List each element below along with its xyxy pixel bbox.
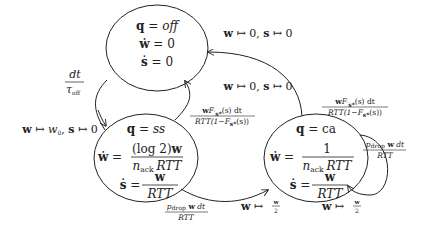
- svg-text:pdrop w dt: pdrop w dt: [366, 140, 405, 150]
- reset-label-ss-off: w ↦ 0, s ↦ 0: [222, 80, 292, 93]
- rate-label-ca-self: pdrop w dt RTT: [363, 140, 406, 160]
- svg-text:RTT(1−Fs*(s)): RTT(1−Fs*(s)): [327, 108, 382, 118]
- svg-text:RTT: RTT: [316, 187, 343, 201]
- reset-label-ca-self: w ↦ w 2: [321, 198, 361, 214]
- svg-text:ẇ =: ẇ =: [269, 150, 294, 164]
- rate-label-ss-off: wF′s*(s) dt RTT(1−Fs*(s)): [190, 106, 255, 127]
- reset-label-ca-off: w ↦ 0, s ↦ 0: [222, 27, 292, 40]
- svg-text:w: w: [324, 170, 336, 184]
- rate-label-ss-ca: pdrop w dt RTT: [165, 202, 208, 222]
- svg-text:τoff: τoff: [66, 83, 81, 96]
- state-off: q = off ẇ = 0 ṡ = 0: [106, 5, 208, 91]
- rate-label-ca-off: wF′s*(s) dt RTT(1−Fs*(s)): [322, 97, 388, 118]
- svg-text:ṡ =: ṡ =: [290, 178, 311, 192]
- state-off-name: off: [162, 19, 180, 33]
- svg-text:w ↦: w ↦: [240, 200, 264, 213]
- svg-text:wF′s*(s) dt: wF′s*(s) dt: [201, 106, 241, 117]
- svg-text:RTT: RTT: [146, 187, 173, 201]
- svg-text:w: w: [353, 198, 360, 205]
- svg-text:w ↦: w ↦: [321, 200, 345, 213]
- svg-text:w: w: [272, 198, 279, 205]
- svg-text:2: 2: [274, 207, 278, 214]
- state-diagram: q = off ẇ = 0 ṡ = 0 q = ss ẇ = (log 2)w …: [0, 0, 422, 227]
- reset-label-ss-ca: w ↦ w 2: [240, 198, 280, 214]
- svg-text:1: 1: [323, 142, 331, 156]
- svg-text:q = off: q = off: [136, 19, 180, 33]
- svg-text:ẇ =: ẇ =: [97, 150, 122, 164]
- svg-text:ṡ =: ṡ =: [120, 178, 141, 192]
- svg-text:RTT: RTT: [376, 151, 394, 160]
- svg-text:ṡ = 0: ṡ = 0: [141, 55, 173, 69]
- svg-text:RTT: RTT: [177, 213, 195, 222]
- svg-text:q = ca: q = ca: [296, 122, 336, 136]
- svg-text:RTT(1−Fs*(s)): RTT(1−Fs*(s)): [194, 117, 249, 127]
- svg-text:q = ss: q = ss: [127, 122, 165, 136]
- state-ca-name: ca: [322, 122, 336, 136]
- state-ss: q = ss ẇ = (log 2)w nackRTT ṡ = w RTT: [94, 114, 198, 202]
- edge-init-to-ss: [98, 110, 106, 126]
- svg-text:2: 2: [355, 207, 359, 214]
- svg-text:dt: dt: [69, 68, 81, 81]
- state-ca: q = ca ẇ = 1 nackRTT ṡ = w RTT: [264, 114, 368, 202]
- svg-text:wF′s*(s) dt: wF′s*(s) dt: [334, 97, 374, 108]
- svg-text:pdrop w dt: pdrop w dt: [167, 202, 206, 212]
- edge-ss-to-off: [175, 81, 190, 120]
- svg-text:ẇ = 0: ẇ = 0: [138, 37, 175, 51]
- reset-label-init: w ↦ w0, s ↦ 0: [21, 123, 97, 136]
- rate-label-off-ss: dt τoff: [65, 68, 84, 96]
- state-ss-name: ss: [153, 122, 165, 136]
- svg-text:(log 2)w: (log 2)w: [132, 142, 183, 156]
- svg-text:w: w: [154, 170, 166, 184]
